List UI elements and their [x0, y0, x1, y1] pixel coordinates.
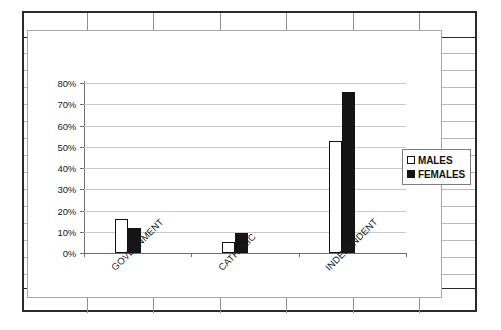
- y-tick-mark: [80, 147, 84, 148]
- y-tick-mark: [80, 104, 84, 105]
- bar-independent-females[interactable]: [342, 92, 355, 254]
- y-axis-tick-label: 0%: [63, 248, 76, 259]
- gridline: [84, 189, 406, 190]
- chart-legend[interactable]: MALES FEMALES: [402, 149, 471, 185]
- y-tick-mark: [80, 211, 84, 212]
- x-tick-mark: [406, 253, 407, 257]
- y-tick-mark: [80, 168, 84, 169]
- y-axis-tick-label: 30%: [58, 184, 76, 195]
- bar-chart[interactable]: 0%10%20%30%40%50%60%70%80%GOVERNMENTCATH…: [27, 30, 442, 298]
- y-tick-mark: [80, 189, 84, 190]
- y-tick-mark: [80, 126, 84, 127]
- gridline: [84, 147, 406, 148]
- chart-plot-wrapper: 0%10%20%30%40%50%60%70%80%GOVERNMENTCATH…: [28, 31, 441, 297]
- filled-square-swatch: [407, 170, 415, 178]
- gridline: [84, 126, 406, 127]
- screenshot-root: 0%10%20%30%40%50%60%70%80%GOVERNMENTCATH…: [0, 0, 501, 330]
- plot-area: 0%10%20%30%40%50%60%70%80%GOVERNMENTCATH…: [84, 83, 406, 253]
- legend-label-females: FEMALES: [418, 169, 465, 180]
- gridline: [84, 104, 406, 105]
- gridline: [84, 211, 406, 212]
- legend-label-males: MALES: [418, 155, 453, 166]
- y-axis-tick-label: 80%: [58, 78, 76, 89]
- y-axis-tick-label: 50%: [58, 141, 76, 152]
- x-tick-mark: [299, 253, 300, 257]
- y-tick-mark: [80, 232, 84, 233]
- gridline: [84, 168, 406, 169]
- bar-independent-males[interactable]: [329, 141, 342, 253]
- y-axis-tick-label: 40%: [58, 163, 76, 174]
- legend-item-females[interactable]: FEMALES: [407, 167, 465, 181]
- x-tick-mark: [84, 253, 85, 257]
- y-axis-tick-label: 10%: [58, 226, 76, 237]
- y-axis-tick-label: 60%: [58, 120, 76, 131]
- gridline: [84, 83, 406, 84]
- hollow-square-swatch: [407, 156, 415, 164]
- y-tick-mark: [80, 83, 84, 84]
- y-axis-tick-label: 20%: [58, 205, 76, 216]
- x-tick-mark: [191, 253, 192, 257]
- y-axis-tick-label: 70%: [58, 99, 76, 110]
- legend-item-males[interactable]: MALES: [407, 153, 465, 167]
